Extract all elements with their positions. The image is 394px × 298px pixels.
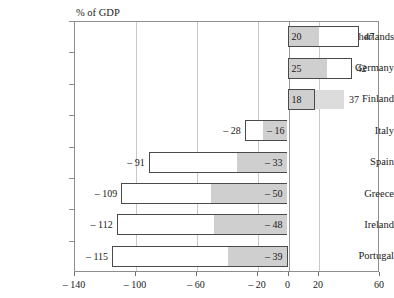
bar-total-value-label: 42 [357, 58, 367, 79]
bar-row: 2047 [0, 26, 394, 47]
bar-total-value-label: – 109 [95, 183, 118, 204]
x-axis-tick-label-0: 0 [285, 279, 290, 291]
y-axis-tick [69, 178, 74, 179]
chart-figure: % of GDP Netherlands2047Germany2542Finla… [0, 0, 394, 298]
y-axis-tick [69, 241, 74, 242]
bar-inner-value-label: – 39 [232, 246, 282, 267]
bar-inner-value-label: 20 [292, 26, 315, 47]
y-axis-tick [69, 147, 74, 148]
bar-inner-value-label: 18 [292, 89, 311, 110]
bar-inner-value-label: – 16 [267, 120, 282, 141]
bar-inner-value-label: – 48 [218, 214, 282, 235]
y-axis-tick [69, 52, 74, 53]
bar-row: 1837 [0, 89, 394, 110]
y-axis-tick [69, 84, 74, 85]
bar-row: – 39– 115 [0, 246, 394, 267]
y-axis-tick [69, 209, 74, 210]
bar-inner-value-label: – 50 [215, 183, 282, 204]
bar-inner-value-label: 25 [292, 58, 322, 79]
bar-row: – 16– 28 [0, 120, 394, 141]
bar-total-value-label: 47 [364, 26, 374, 47]
x-axis-tick--20 [257, 272, 258, 276]
bar-total-value-label: – 112 [91, 214, 113, 235]
axis-caption: % of GDP [76, 7, 120, 19]
bar-total-value-label: – 28 [223, 120, 241, 141]
x-axis-tick-label--100: – 100 [124, 279, 147, 291]
x-axis-tick--60 [196, 272, 197, 276]
bar-total-value-label: – 115 [86, 246, 108, 267]
y-axis-tick [69, 21, 74, 22]
bar-row: – 33– 91 [0, 152, 394, 173]
bar-total-value-label: – 91 [127, 152, 145, 173]
x-axis-tick--100 [135, 272, 136, 276]
x-axis-tick-label--20: – 20 [248, 279, 266, 291]
bar-total-value-label: 37 [349, 89, 359, 110]
bar-ghost-segment [315, 90, 344, 109]
x-axis-tick-label-20: 20 [313, 279, 323, 291]
x-axis-tick-0 [288, 272, 289, 276]
x-axis-tick-label--140: – 140 [63, 279, 86, 291]
bar-row: – 50– 109 [0, 183, 394, 204]
bar-row: 2542 [0, 58, 394, 79]
x-axis-tick-20 [318, 272, 319, 276]
x-axis-tick-label-60: 60 [374, 279, 384, 291]
bar-inner-value-label: – 33 [241, 152, 282, 173]
x-axis-tick-label--60: – 60 [187, 279, 205, 291]
x-axis-tick--140 [74, 272, 75, 276]
bar-row: – 48– 112 [0, 214, 394, 235]
y-axis-tick [69, 115, 74, 116]
x-axis-tick-60 [379, 272, 380, 276]
